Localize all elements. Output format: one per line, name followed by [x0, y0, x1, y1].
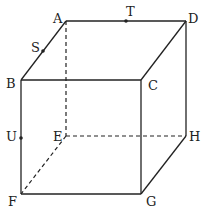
- point-S-marker: [41, 49, 45, 53]
- vertex-label-A: A: [52, 11, 63, 26]
- point-label-U: U: [6, 129, 17, 144]
- vertex-label-E: E: [53, 129, 63, 144]
- vertex-label-D: D: [188, 11, 198, 26]
- point-label-T: T: [126, 4, 135, 19]
- cube-diagram: A D B C E H F G S T U: [0, 0, 203, 211]
- point-T-marker: [124, 19, 128, 23]
- vertex-label-H: H: [189, 129, 200, 144]
- vertex-label-C: C: [148, 78, 158, 93]
- vertex-label-G: G: [146, 194, 156, 209]
- edge-DC: [141, 21, 186, 80]
- point-label-S: S: [31, 40, 40, 55]
- edge-EF: [21, 136, 66, 194]
- vertex-label-F: F: [8, 194, 17, 209]
- vertex-label-B: B: [6, 76, 16, 91]
- edge-GH: [141, 136, 186, 194]
- point-U-marker: [19, 136, 23, 140]
